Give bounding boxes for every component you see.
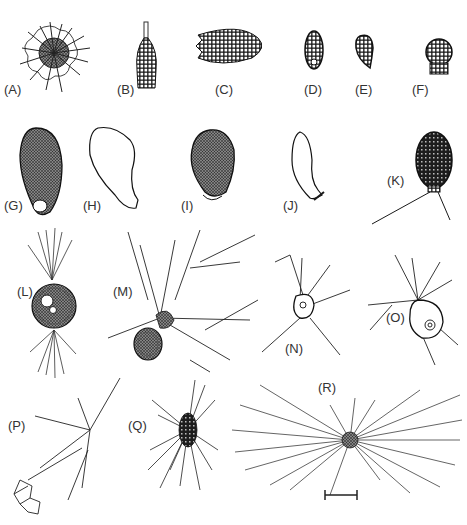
panel-c-illustration xyxy=(196,29,262,63)
panel-label-b: (B) xyxy=(117,83,134,96)
panel-q-illustration xyxy=(148,380,218,490)
panel-label-i: (I) xyxy=(181,199,193,212)
panel-e-illustration xyxy=(356,35,373,68)
panel-l-illustration xyxy=(28,228,76,378)
panel-label-h: (H) xyxy=(83,199,101,212)
panel-label-d: (D) xyxy=(304,83,322,96)
panel-label-l: (L) xyxy=(17,285,33,298)
scale-bar xyxy=(325,490,357,500)
panel-a-illustration xyxy=(20,22,90,92)
panel-o-illustration xyxy=(368,255,458,365)
panel-d-illustration xyxy=(305,31,323,69)
panel-k-illustration xyxy=(372,132,452,224)
panel-j-illustration xyxy=(292,132,324,200)
panel-label-g: (G) xyxy=(4,199,23,212)
panel-b-illustration xyxy=(137,22,157,88)
figure-illustrations xyxy=(0,0,467,525)
panel-label-n: (N) xyxy=(285,342,303,355)
panel-label-q: (Q) xyxy=(128,419,147,432)
panel-m-illustration xyxy=(108,230,258,372)
panel-label-r: (R) xyxy=(318,381,336,394)
panel-label-a: (A) xyxy=(4,83,21,96)
panel-label-k: (K) xyxy=(387,174,404,187)
panel-label-j: (J) xyxy=(283,199,298,212)
panel-f-illustration xyxy=(426,39,452,74)
panel-label-p: (P) xyxy=(8,419,25,432)
panel-p-illustration xyxy=(14,378,120,514)
panel-g-illustration xyxy=(20,128,62,215)
panel-n-illustration xyxy=(262,255,350,355)
panel-label-e: (E) xyxy=(355,83,372,96)
panel-label-o: (O) xyxy=(386,311,405,324)
panel-label-m: (M) xyxy=(113,285,133,298)
panel-label-c: (C) xyxy=(215,83,233,96)
panel-i-illustration xyxy=(191,130,234,200)
panel-h-illustration xyxy=(90,128,138,209)
panel-r-illustration xyxy=(232,385,462,495)
panel-label-f: (F) xyxy=(412,83,429,96)
